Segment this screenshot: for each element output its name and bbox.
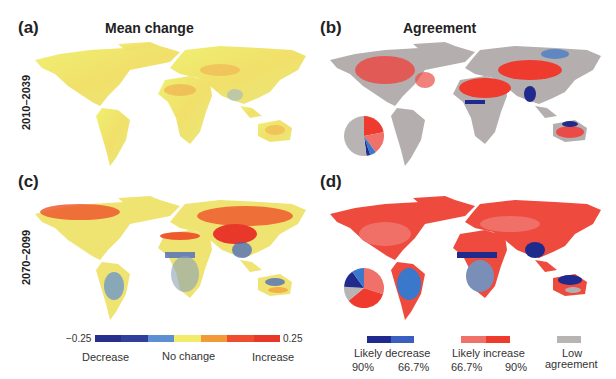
legend-swatch-likely-increase [461, 336, 510, 343]
legend-swatch-low-agreement [557, 336, 581, 343]
label-likely-decrease: Likely decrease [354, 347, 430, 359]
panel-label-b: (b) [320, 18, 342, 38]
legend-swatch-likely-decrease [367, 336, 414, 343]
map-a-mean-change-2010-2039 [30, 40, 310, 170]
label-ld-667: 66.7% [398, 361, 429, 373]
label-increase: Increase [252, 351, 294, 363]
label-decrease: Decrease [82, 351, 129, 363]
title-mean-change: Mean change [105, 20, 194, 36]
label-li-667: 66.7% [451, 361, 482, 373]
colorbar-max-label: 0.25 [283, 333, 302, 344]
panel-label-d: (d) [320, 172, 342, 192]
title-agreement: Agreement [403, 20, 476, 36]
label-agreement: agreement [545, 358, 598, 370]
pie-d-agreement-summary [344, 268, 384, 308]
map-c-mean-change-2070-2099 [30, 194, 310, 324]
label-ld-90: 90% [352, 361, 374, 373]
panel-label-a: (a) [18, 18, 39, 38]
panel-label-c: (c) [18, 172, 39, 192]
pie-b-agreement-summary [344, 116, 384, 156]
label-likely-increase: Likely increase [452, 347, 525, 359]
colorbar-min-label: −0.25 [66, 333, 91, 344]
colorbar-mean-change [95, 335, 280, 342]
label-no-change: No change [162, 350, 215, 362]
label-li-90: 90% [505, 361, 527, 373]
